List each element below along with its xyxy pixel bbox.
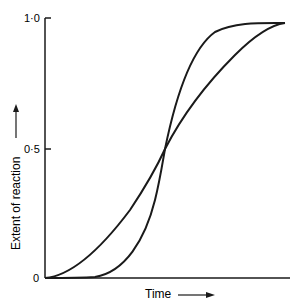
y-tick-label-05: 0·5: [24, 143, 40, 155]
y-axis-label: Extent of reaction: [9, 157, 23, 250]
chart: 1·0 0·5 0 Extent of reaction Time: [0, 0, 298, 304]
y-tick-label-0: 0: [33, 272, 39, 284]
series-steep: [45, 23, 285, 278]
y-tick-label-1: 1·0: [24, 12, 40, 24]
x-axis-label: Time: [145, 287, 172, 301]
